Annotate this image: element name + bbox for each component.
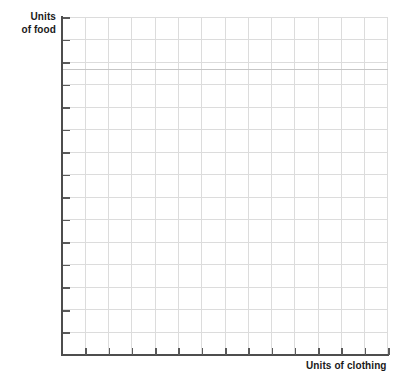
figure-canvas: Units of food Units of clothing xyxy=(0,0,410,390)
x-axis-tick xyxy=(388,348,390,355)
y-axis-tick xyxy=(63,85,70,87)
x-axis-label: Units of clothing xyxy=(306,360,387,371)
y-axis-tick xyxy=(63,40,70,42)
y-axis-tick xyxy=(63,197,70,199)
y-axis-tick xyxy=(63,287,70,289)
y-axis-tick xyxy=(63,332,70,334)
y-axis-line xyxy=(61,16,63,356)
x-axis-tick xyxy=(85,348,87,355)
x-axis-tick xyxy=(341,348,343,355)
x-axis-tick xyxy=(365,348,367,355)
x-axis-tick xyxy=(272,348,274,355)
y-axis-label: Units of food xyxy=(4,11,56,36)
x-axis-tick xyxy=(225,348,227,355)
y-axis-tick xyxy=(63,107,70,109)
y-axis-label-line2: of food xyxy=(4,24,56,37)
y-axis-tick xyxy=(63,220,70,222)
x-axis-tick xyxy=(318,348,320,355)
x-axis-tick xyxy=(109,348,111,355)
y-axis-tick xyxy=(63,175,70,177)
y-axis-tick xyxy=(63,130,70,132)
grid-lines xyxy=(62,17,388,355)
y-axis-tick xyxy=(63,242,70,244)
x-axis-tick xyxy=(295,348,297,355)
x-axis-tick xyxy=(248,348,250,355)
x-axis-tick xyxy=(202,348,204,355)
plot-area xyxy=(62,17,388,355)
y-axis-tick xyxy=(63,265,70,267)
y-axis-tick xyxy=(63,152,70,154)
scan-artifact-line xyxy=(62,69,388,70)
y-axis-tick xyxy=(63,17,70,19)
y-axis-label-line1: Units xyxy=(4,11,56,24)
x-axis-tick xyxy=(132,348,134,355)
y-axis-tick xyxy=(63,310,70,312)
x-axis-tick xyxy=(155,348,157,355)
x-axis-tick xyxy=(178,348,180,355)
y-axis-tick xyxy=(63,62,70,64)
